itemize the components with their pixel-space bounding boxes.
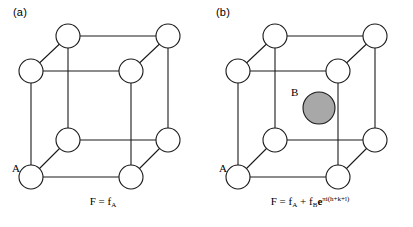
atom-corner-back-bottom-left <box>56 128 80 152</box>
formula-b-exp-sup: πi(h+k+l) <box>322 195 349 203</box>
atom-corner-front-bottom-left <box>19 165 43 189</box>
formula-a-equals: = <box>99 195 105 207</box>
panel-a-unit-cell: A <box>0 0 206 200</box>
atom-corner-back-bottom-left <box>263 128 287 152</box>
atom-corner-front-bottom-left <box>226 165 250 189</box>
atom-center-b <box>303 92 335 124</box>
formula-b-term1-sub: A <box>292 201 297 209</box>
atom-corner-back-bottom-right <box>363 128 387 152</box>
formula-b-plus: + <box>300 195 306 207</box>
panel-a-formula: F = fA <box>0 196 206 207</box>
structure-factor-figure: (a) <box>0 0 413 227</box>
atom-corner-back-bottom-right <box>156 128 180 152</box>
atom-corner-back-top-left <box>263 24 287 48</box>
atom-a-label: A <box>12 162 20 174</box>
atom-corner-front-bottom-right <box>326 165 350 189</box>
atom-a-label: A <box>219 162 227 174</box>
formula-b-term2-sub: B <box>313 201 318 209</box>
atom-corner-front-top-right <box>119 59 143 83</box>
panel-b-unit-cell: B A <box>207 0 413 200</box>
formula-b-equals: = <box>280 195 286 207</box>
atom-corner-front-top-right <box>326 59 350 83</box>
panel-b-formula: F = fA + fBeπi(h+k+l) <box>207 196 413 207</box>
atom-corner-front-top-left <box>226 59 250 83</box>
formula-a-term1-sub: A <box>111 201 116 209</box>
atom-corner-front-bottom-right <box>119 165 143 189</box>
atom-b-label: B <box>291 86 298 98</box>
panel-b: (b) B <box>207 0 413 227</box>
atom-corner-back-top-left <box>56 24 80 48</box>
formula-a-lhs: F <box>90 195 96 207</box>
panel-a: (a) <box>0 0 206 227</box>
formula-b-lhs: F <box>271 195 277 207</box>
atom-corner-front-top-left <box>19 59 43 83</box>
atom-corner-back-top-right <box>156 24 180 48</box>
atom-corner-back-top-right <box>363 24 387 48</box>
